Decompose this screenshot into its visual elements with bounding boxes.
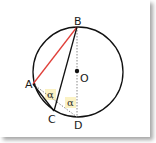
chord-ab	[33, 27, 77, 84]
circle-diagram: B O A C D α α	[0, 0, 156, 143]
diagram-card: B O A C D α α	[0, 0, 150, 137]
angle-label-d: α	[67, 97, 74, 108]
angle-label-a: α	[47, 89, 54, 100]
label-d: D	[74, 119, 82, 132]
label-b: B	[74, 15, 82, 28]
label-a: A	[25, 78, 33, 91]
label-o: O	[80, 72, 89, 85]
label-c: C	[48, 113, 56, 126]
center-dot	[75, 69, 79, 73]
